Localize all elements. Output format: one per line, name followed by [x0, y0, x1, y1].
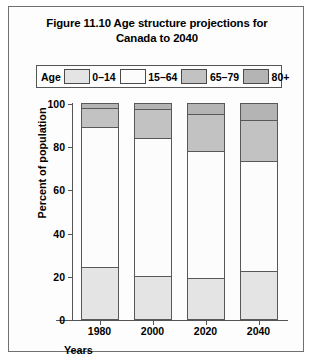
bar-segment-1980-1564	[81, 127, 119, 268]
x-tick-mark-2040	[259, 321, 260, 325]
bar-segment-2020-014	[187, 278, 225, 320]
plot-wrapper: Percent of population Years 020406080100…	[9, 7, 305, 353]
bar-2040	[240, 104, 278, 320]
bar-1980	[81, 104, 119, 320]
x-axis-line	[56, 320, 288, 321]
y-tick-mark-40	[68, 234, 72, 235]
bar-segment-2040-1564	[240, 161, 278, 272]
bar-segment-2000-014	[134, 276, 172, 320]
x-tick-label-2040: 2040	[233, 325, 285, 337]
bar-segment-2020-6579	[187, 114, 225, 152]
y-tick-mark-0	[68, 320, 72, 321]
y-tick-label-80: 80	[39, 141, 65, 153]
bar-segment-1980-014	[81, 267, 119, 320]
x-tick-label-2020: 2020	[180, 325, 232, 337]
bar-segment-2040-80+	[240, 103, 278, 121]
y-tick-mark-80	[68, 147, 72, 148]
y-tick-mark-100	[68, 104, 72, 105]
bar-2020	[187, 104, 225, 320]
bar-segment-2040-6579	[240, 120, 278, 162]
y-tick-label-0: 0	[39, 314, 65, 326]
bar-segment-2020-80+	[187, 103, 225, 115]
bar-segment-1980-80+	[81, 103, 119, 109]
x-tick-label-1980: 1980	[74, 325, 126, 337]
y-tick-mark-20	[68, 277, 72, 278]
bar-segment-2000-80+	[134, 103, 172, 110]
figure-frame: Figure 11.10 Age structure projections f…	[8, 6, 304, 352]
plot-area	[73, 104, 285, 320]
bar-2000	[134, 104, 172, 320]
bar-segment-2000-6579	[134, 109, 172, 138]
bar-segment-2020-1564	[187, 151, 225, 279]
y-tick-label-20: 20	[39, 271, 65, 283]
x-axis-title: Years	[64, 344, 93, 356]
bar-segment-2040-014	[240, 271, 278, 320]
x-tick-mark-2020	[206, 321, 207, 325]
x-tick-mark-2000	[153, 321, 154, 325]
bar-segment-2000-1564	[134, 138, 172, 277]
bar-segment-1980-6579	[81, 108, 119, 127]
x-tick-mark-1980	[100, 321, 101, 325]
y-tick-label-40: 40	[39, 228, 65, 240]
y-tick-label-100: 100	[39, 98, 65, 110]
y-tick-mark-60	[68, 190, 72, 191]
x-tick-label-2000: 2000	[127, 325, 179, 337]
y-tick-label-60: 60	[39, 184, 65, 196]
